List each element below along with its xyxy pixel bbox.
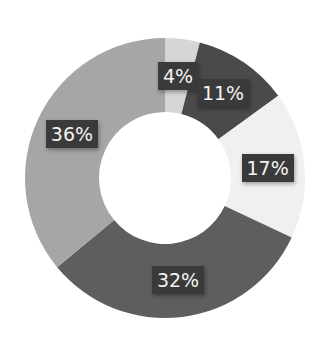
slice-label: 17% [242,154,294,182]
slice-label: 32% [152,266,204,294]
slice-label: 11% [197,79,249,107]
donut-slice [25,38,165,267]
slice-label: 36% [46,120,98,148]
slice-label: 4% [158,62,198,90]
